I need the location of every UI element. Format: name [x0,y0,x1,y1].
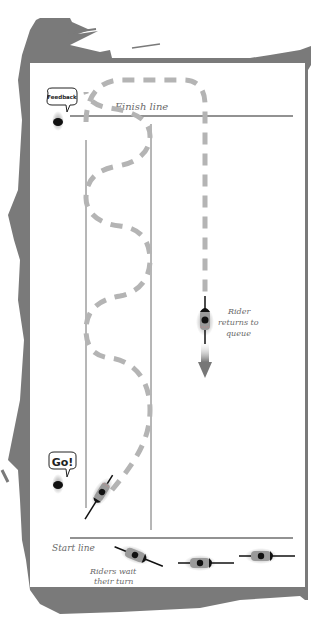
course-panel [30,63,305,587]
riders-wait-label-1: Riders wait [89,567,137,576]
rider-returns-label-3: queue [226,329,251,338]
rider-returns-label-2: returns to [218,318,259,327]
start-line-label: Start line [52,543,95,553]
go-bubble-text: Go! [52,456,74,469]
drill-diagram: Finish line Start line Rider returns to … [0,0,311,632]
riders-wait-label-2: their turn [94,577,133,586]
feedback-bubble-text: Feedback [47,94,77,100]
rider-returns-label-1: Rider [227,307,251,316]
